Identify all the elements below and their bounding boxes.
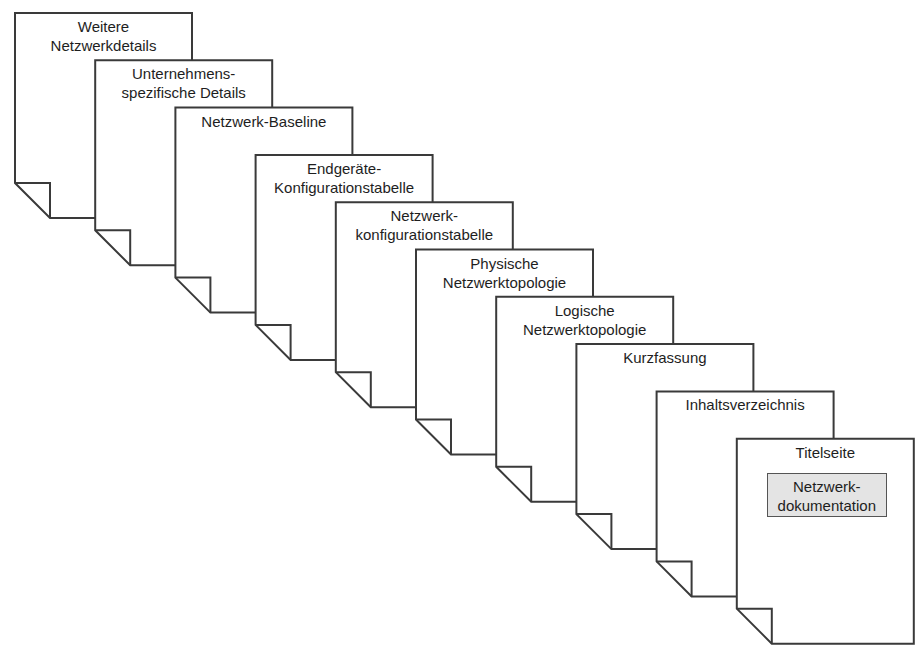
network-documentation-diagram: WeitereNetzwerkdetailsUnternehmens-spezi… [0, 0, 922, 653]
page-label-line: Unternehmens- [95, 64, 272, 83]
page-label-line: Inhaltsverzeichnis [657, 395, 834, 414]
title-box-line: Netzwerk- [768, 477, 886, 496]
page-label-line: Endgeräte- [256, 159, 433, 178]
page-label-line: konfigurationstabelle [336, 225, 513, 244]
title-box-line: dokumentation [768, 496, 886, 515]
page-label-line: Konfigurationstabelle [256, 178, 433, 197]
page-label: Netzwerk-Baseline [175, 112, 352, 131]
page-label: Unternehmens-spezifische Details [95, 64, 272, 102]
page-label-line: Logische [496, 301, 673, 320]
page-label-line: spezifische Details [95, 83, 272, 102]
page-label: Kurzfassung [576, 348, 753, 367]
page-label-line: Netzwerktopologie [496, 320, 673, 339]
page-label-line: Physische [416, 254, 593, 273]
page-label: LogischeNetzwerktopologie [496, 301, 673, 339]
page-outline [737, 439, 914, 644]
page-label-line: Titelseite [737, 443, 914, 462]
document-title-box: Netzwerk-dokumentation [767, 473, 887, 517]
page-label: PhysischeNetzwerktopologie [416, 254, 593, 292]
page-label-line: Netzwerk-Baseline [175, 112, 352, 131]
page-label: Netzwerk-konfigurationstabelle [336, 206, 513, 244]
page-label-line: Weitere [15, 17, 192, 36]
page-label: Endgeräte-Konfigurationstabelle [256, 159, 433, 197]
page-label-line: Netzwerktopologie [416, 273, 593, 292]
page-label-line: Netzwerk- [336, 206, 513, 225]
page-label: Titelseite [737, 443, 914, 462]
page-label: Inhaltsverzeichnis [657, 395, 834, 414]
page-label: WeitereNetzwerkdetails [15, 17, 192, 55]
page-label-line: Netzwerkdetails [15, 36, 192, 55]
document-page [737, 439, 914, 644]
page-label-line: Kurzfassung [576, 348, 753, 367]
